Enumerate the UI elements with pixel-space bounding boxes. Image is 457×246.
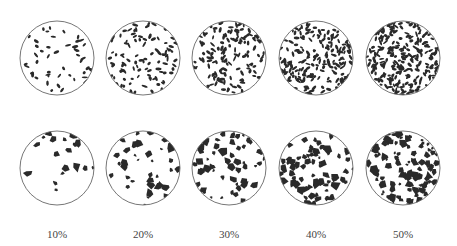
particle-fraction-figure (0, 0, 457, 246)
sample-circle-fine-particles-10 (20, 21, 94, 95)
sample-circle-fine-particles-20 (106, 21, 180, 95)
sample-circle-fine-particles-50 (365, 20, 440, 96)
label-50: 50% (373, 228, 433, 240)
label-30: 30% (199, 228, 259, 240)
sample-circle-fine-particles-30 (191, 20, 266, 95)
label-20: 20% (113, 228, 173, 240)
sample-circle-fine-particles-40 (277, 21, 355, 95)
sample-circle-coarse-particles-10 (20, 129, 95, 205)
sample-circle-coarse-particles-40 (278, 131, 354, 207)
sample-circle-coarse-particles-30 (192, 131, 267, 205)
label-10: 10% (27, 228, 87, 240)
sample-circle-coarse-particles-20 (106, 128, 182, 206)
label-40: 40% (286, 228, 346, 240)
sample-circle-coarse-particles-50 (363, 131, 440, 206)
